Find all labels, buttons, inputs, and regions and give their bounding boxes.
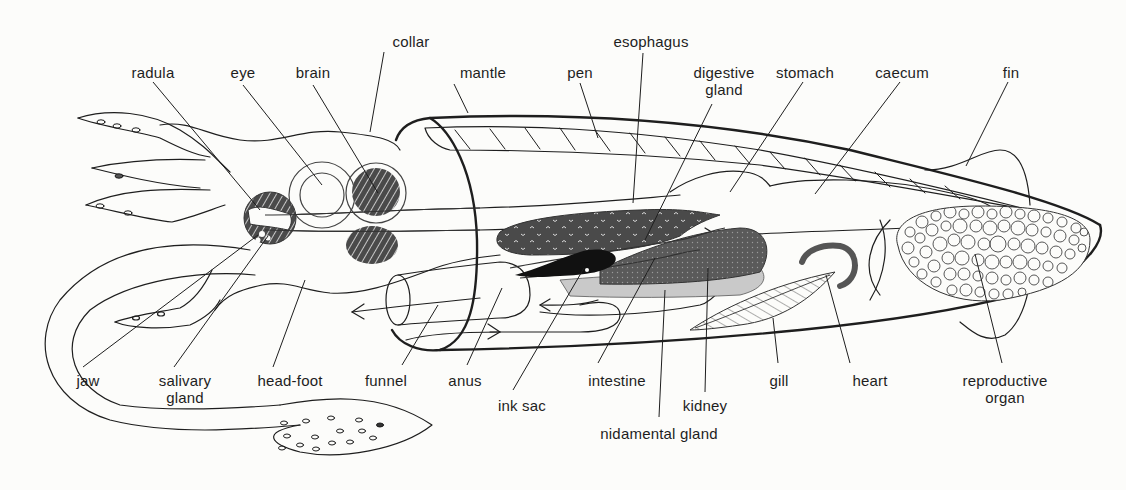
label-stomach: stomach: [776, 64, 834, 81]
label-radula: radula: [132, 64, 175, 81]
label-ink-sac: ink sac: [498, 397, 546, 414]
squid-anatomy-diagram: radula eye brain collar mantle pen esoph…: [0, 0, 1126, 490]
brain: [346, 163, 406, 264]
label-nidamental-gland: nidamental gland: [600, 425, 717, 442]
arm-1: [78, 113, 230, 172]
label-caecum: caecum: [875, 64, 929, 81]
label-mantle: mantle: [460, 64, 506, 81]
label-kidney: kidney: [683, 397, 728, 414]
label-digestive-gland: digestive gland: [693, 64, 754, 98]
label-jaw: jaw: [76, 372, 99, 389]
stomach: [670, 171, 770, 192]
label-collar: collar: [392, 33, 429, 50]
label-pen: pen: [567, 64, 593, 81]
label-esophagus: esophagus: [613, 33, 688, 50]
eye: [289, 162, 355, 228]
arm-2: [92, 159, 205, 168]
label-salivary-gland: salivary gland: [159, 372, 211, 406]
label-gill: gill: [769, 372, 788, 389]
label-eye: eye: [231, 64, 256, 81]
reproductive-organ: [897, 206, 1090, 301]
label-funnel: funnel: [365, 372, 407, 389]
label-heart: heart: [852, 372, 887, 389]
label-fin: fin: [1003, 64, 1019, 81]
funnel: [386, 275, 410, 325]
label-head-foot: head-foot: [257, 372, 322, 389]
label-reproductive-organ: reproductive organ: [963, 372, 1048, 406]
label-intestine: intestine: [588, 372, 646, 389]
label-brain: brain: [296, 64, 330, 81]
label-anus: anus: [448, 372, 481, 389]
arm-3: [86, 189, 210, 205]
